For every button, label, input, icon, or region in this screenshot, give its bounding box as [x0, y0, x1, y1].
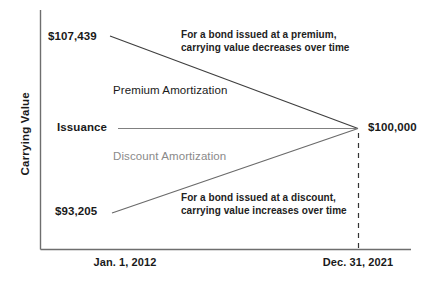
bond-carrying-value-chart: Carrying Value $107,439 Issuance $93,205… — [0, 0, 443, 283]
issuance-label: Issuance — [57, 122, 107, 134]
discount-annotation: For a bond issued at a discount, carryin… — [181, 191, 347, 217]
x-axis-tick-start: Jan. 1, 2012 — [75, 257, 175, 268]
premium-annotation-line-2: carrying value decreases over time — [181, 41, 349, 54]
premium-annotation-line-1: For a bond issued at a premium, — [181, 28, 349, 41]
premium-annotation: For a bond issued at a premium, carrying… — [181, 28, 349, 54]
premium-series-label: Premium Amortization — [113, 85, 227, 97]
discount-start-value-label: $93,205 — [55, 206, 97, 218]
discount-annotation-line-1: For a bond issued at a discount, — [181, 191, 347, 204]
premium-start-value-label: $107,439 — [48, 31, 97, 43]
discount-series-label: Discount Amortization — [113, 151, 226, 163]
convergence-value-label: $100,000 — [368, 122, 417, 134]
discount-annotation-line-2: carrying value increases over time — [181, 204, 347, 217]
y-axis-title: Carrying Value — [20, 84, 32, 184]
x-axis-tick-end: Dec. 31, 2021 — [308, 257, 408, 268]
